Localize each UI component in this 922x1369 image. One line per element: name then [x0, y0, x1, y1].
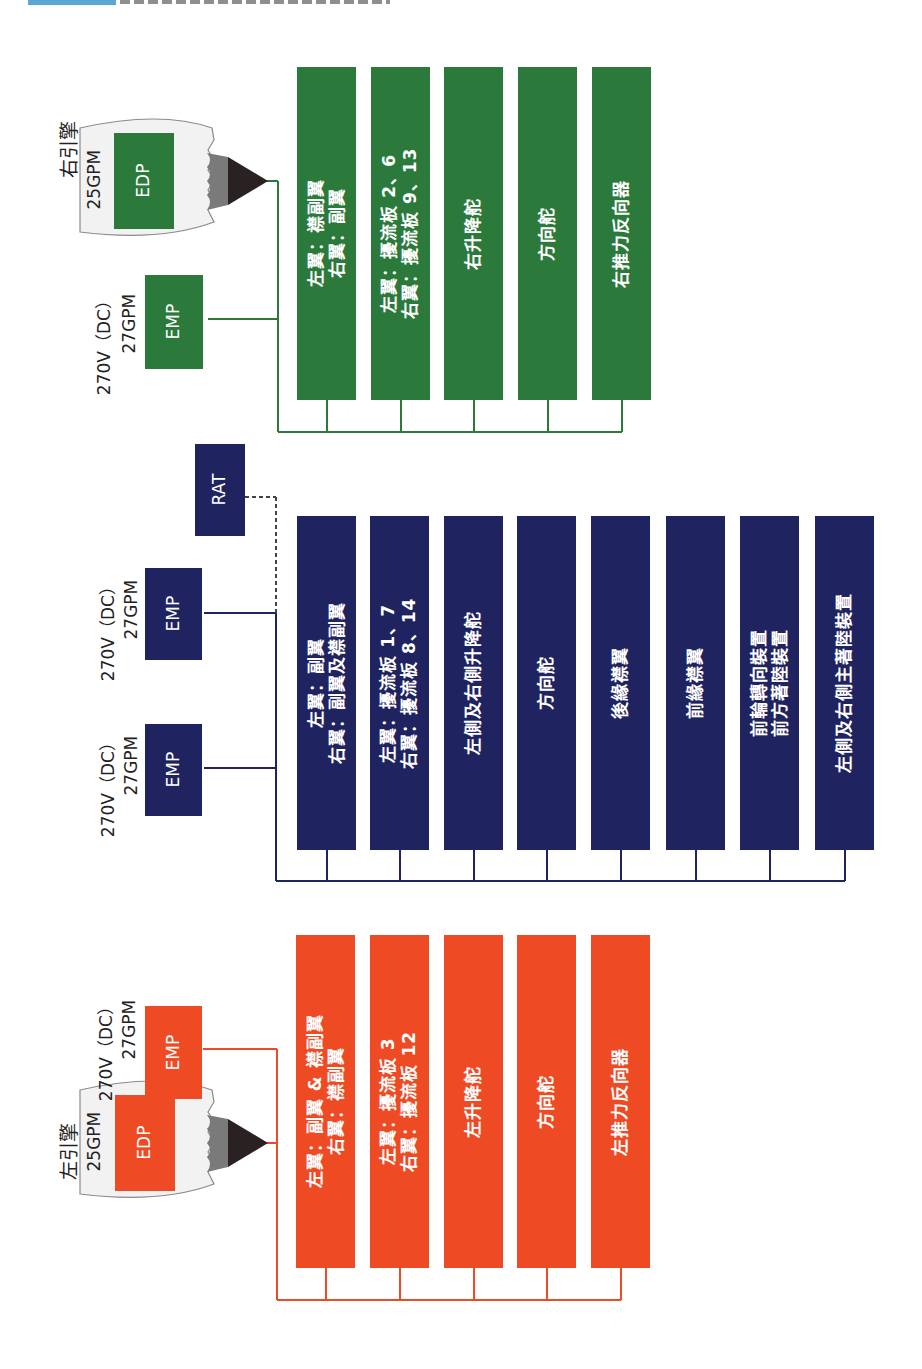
bar-label-line: 右翼：副翼及襟副翼 [327, 602, 348, 764]
bar-label-line: 方向舵 [537, 207, 558, 261]
center-emp2-box: EMP [145, 724, 202, 816]
bar-label-line: 左翼：副翼 & 襟副翼 [304, 1015, 325, 1189]
left-consumer-bar: 左翼：擾流板 3右翼：擾流板 12 [370, 935, 429, 1268]
center-consumer-bar: 左側及右側主著陸裝置 [815, 516, 874, 850]
bar-label-line: 前輪轉向裝置 [748, 629, 769, 737]
bar-label-line: 右翼：擾流板 9、13 [401, 148, 422, 319]
left-consumer-bar: 左翼：副翼 & 襟副翼右翼：襟副翼 [296, 935, 355, 1268]
right-engine-nacelle [80, 119, 268, 235]
left-emp-flow: 27GPM [116, 980, 144, 1080]
right-consumer-bar: 左翼：擾流板 2、6右翼：擾流板 9、13 [371, 67, 430, 400]
bar-label-line: 左側及右側主著陸裝置 [834, 593, 855, 773]
bar-label-line: 方向舵 [536, 1075, 557, 1129]
bar-label-line: 右翼：擾流板 12 [400, 1031, 421, 1172]
left-edp-box: EDP [115, 1095, 175, 1191]
bar-label-line: 左翼：襟副翼 [305, 180, 326, 288]
right-engine-label: 右引擎 [52, 120, 86, 180]
bar-label-line: 方向舵 [536, 656, 557, 710]
bar-label-line: 左升降舵 [463, 1066, 484, 1138]
center-emp1-box: EMP [145, 568, 202, 660]
left-engine-label: 左引擎 [52, 1122, 86, 1182]
center-emp2-flow: 27GPM [118, 716, 146, 816]
bar-label-line: 右翼：副翼 [327, 180, 348, 288]
bar-label-line: 前緣襟翼 [685, 647, 706, 719]
center-consumer-bar: 左翼：擾流板 1、7右翼：擾流板 8、14 [370, 516, 429, 850]
bar-label-line: 前方著陸裝置 [770, 629, 791, 737]
right-consumer-bar: 左翼：襟副翼右翼：副翼 [297, 67, 356, 400]
bar-label-line: 左翼：副翼 [305, 602, 326, 764]
bar-label-line: 左推力反向器 [610, 1048, 631, 1156]
left-consumer-bar: 左推力反向器 [591, 935, 650, 1268]
left-consumer-bar: 左升降舵 [444, 935, 503, 1268]
center-consumer-bar: 後緣襟翼 [591, 516, 650, 850]
right-consumer-bar: 方向舵 [518, 67, 577, 400]
left-emp-box: EMP [145, 1006, 202, 1099]
right-emp-box: EMP [145, 275, 203, 369]
center-consumer-bar: 前輪轉向裝置前方著陸裝置 [740, 516, 799, 850]
left-consumer-bar: 方向舵 [517, 935, 576, 1268]
center-consumer-bar: 方向舵 [517, 516, 576, 850]
right-consumer-bar: 右升降舵 [444, 67, 503, 400]
right-edp-box: EDP [114, 133, 174, 229]
bar-label-line: 右翼：襟副翼 [326, 1015, 347, 1189]
center-consumer-bar: 左側及右側升降舵 [444, 516, 503, 850]
bar-label-line: 左翼：擾流板 3 [378, 1031, 399, 1172]
right-emp-flow: 27GPM [116, 274, 144, 374]
bar-label-line: 後緣襟翼 [610, 647, 631, 719]
center-emp1-flow: 27GPM [118, 560, 146, 660]
rat-box: RAT [195, 444, 245, 536]
bar-label-line: 右升降舵 [463, 198, 484, 270]
bar-label-line: 左翼：擾流板 2、6 [379, 148, 400, 319]
center-consumer-bar: 左翼：副翼右翼：副翼及襟副翼 [297, 516, 356, 850]
bar-label-line: 右翼：擾流板 8、14 [400, 597, 421, 768]
bar-label-line: 右推力反向器 [611, 180, 632, 288]
center-consumer-bar: 前緣襟翼 [666, 516, 725, 850]
rat-dashed-line [245, 497, 276, 613]
bar-label-line: 左側及右側升降舵 [463, 611, 484, 755]
right-edp-flow: 25GPM [82, 130, 108, 230]
right-consumer-bar: 右推力反向器 [592, 67, 651, 400]
bar-label-line: 左翼：擾流板 1、7 [378, 597, 399, 768]
